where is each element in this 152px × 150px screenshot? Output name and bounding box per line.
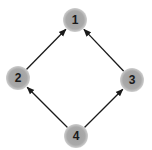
node-label: 2 [15,71,22,85]
graph-diagram: 1234 [0,0,152,150]
node-4: 4 [64,124,88,148]
node-3: 3 [120,68,144,92]
node-label: 3 [129,73,136,87]
node-label: 4 [73,129,80,143]
edges-layer [26,29,123,127]
edge-4-to-2 [27,87,67,127]
node-label: 1 [72,13,79,27]
node-2: 2 [6,66,30,90]
edge-3-to-1 [84,29,124,71]
edge-4-to-3 [84,89,122,127]
node-1: 1 [63,8,87,32]
nodes-layer: 1234 [6,8,144,148]
edge-2-to-1 [26,29,65,69]
